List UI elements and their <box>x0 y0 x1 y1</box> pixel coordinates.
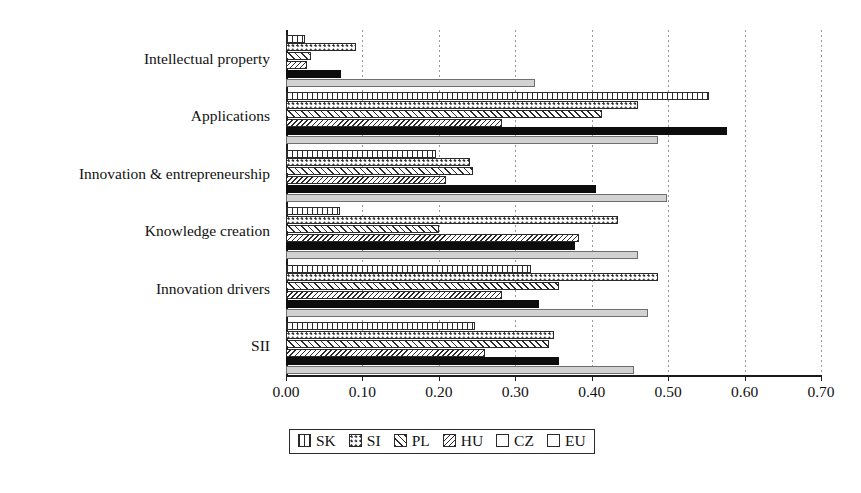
legend-item-hu: HU <box>443 433 483 449</box>
bar-group <box>286 318 820 376</box>
bar-group <box>286 260 820 318</box>
bar-hu <box>286 291 502 299</box>
legend-label: PL <box>412 433 430 449</box>
tick-mark <box>592 375 593 381</box>
x-tick-label: 0.10 <box>332 383 392 401</box>
bar-pl <box>286 167 473 175</box>
bar-sk <box>286 265 531 273</box>
legend-swatch-cz-icon <box>496 434 509 447</box>
bar-hu <box>286 61 307 69</box>
bar-sk <box>286 92 709 100</box>
gridline <box>821 30 822 375</box>
category-label: SII <box>251 337 270 355</box>
chart-legend: SKSIPLHUCZEU <box>289 429 595 454</box>
legend-swatch-si-icon <box>349 434 362 447</box>
bar-hu <box>286 176 446 184</box>
bar-si <box>286 216 618 224</box>
bar-hu <box>286 119 502 127</box>
bar-pl <box>286 110 602 118</box>
bar-cz <box>286 185 596 193</box>
category-label: Intellectual property <box>144 50 270 68</box>
bar-pl <box>286 340 549 348</box>
bar-cz <box>286 300 539 308</box>
legend-label: EU <box>565 433 586 449</box>
bar-hu <box>286 349 485 357</box>
legend-label: HU <box>461 433 483 449</box>
bar-cz <box>286 127 727 135</box>
legend-item-cz: CZ <box>496 433 534 449</box>
bar-si <box>286 158 470 166</box>
bar-sk <box>286 322 475 330</box>
x-tick-label: 0.30 <box>485 383 545 401</box>
category-axis-labels: Intellectual propertyApplicationsInnovat… <box>0 30 278 375</box>
bar-group <box>286 88 820 146</box>
bar-eu <box>286 309 648 317</box>
bar-si <box>286 43 356 51</box>
plot-area <box>286 30 820 375</box>
bar-si <box>286 273 658 281</box>
x-tick-label: 0.20 <box>409 383 469 401</box>
bar-eu <box>286 366 634 374</box>
bar-chart: Intellectual propertyApplicationsInnovat… <box>0 0 861 493</box>
category-label: Applications <box>191 107 270 125</box>
legend-swatch-pl-icon <box>394 434 407 447</box>
legend-item-pl: PL <box>394 433 430 449</box>
tick-mark <box>439 375 440 381</box>
bar-si <box>286 101 638 109</box>
legend-label: CZ <box>514 433 534 449</box>
bar-eu <box>286 251 638 259</box>
bar-pl <box>286 282 559 290</box>
tick-mark <box>515 375 516 381</box>
bar-si <box>286 331 554 339</box>
x-tick-label: 0.60 <box>715 383 775 401</box>
bar-sk <box>286 35 305 43</box>
legend-label: SI <box>367 433 381 449</box>
bar-eu <box>286 194 667 202</box>
category-label: Knowledge creation <box>145 222 270 240</box>
bar-group <box>286 203 820 261</box>
category-label: Innovation drivers <box>156 280 270 298</box>
x-axis-line <box>286 375 821 377</box>
legend-swatch-hu-icon <box>443 434 456 447</box>
tick-mark <box>362 375 363 381</box>
legend-item-si: SI <box>349 433 381 449</box>
legend-swatch-sk-icon <box>298 434 311 447</box>
x-tick-label: 0.70 <box>791 383 851 401</box>
x-tick-label: 0.50 <box>638 383 698 401</box>
tick-mark <box>745 375 746 381</box>
bar-hu <box>286 234 579 242</box>
bar-eu <box>286 79 535 87</box>
legend-swatch-eu-icon <box>547 434 560 447</box>
bar-cz <box>286 357 559 365</box>
bar-sk <box>286 150 436 158</box>
legend-item-sk: SK <box>298 433 336 449</box>
x-tick-label: 0.00 <box>256 383 316 401</box>
category-label: Innovation & entrepreneurship <box>79 165 270 183</box>
bar-eu <box>286 136 658 144</box>
bar-cz <box>286 70 341 78</box>
legend-label: SK <box>316 433 336 449</box>
bar-group <box>286 30 820 88</box>
legend-item-eu: EU <box>547 433 586 449</box>
bar-pl <box>286 225 439 233</box>
tick-mark <box>286 375 287 381</box>
x-tick-label: 0.40 <box>562 383 622 401</box>
bar-cz <box>286 242 575 250</box>
bar-sk <box>286 207 340 215</box>
bar-pl <box>286 52 311 60</box>
tick-mark <box>668 375 669 381</box>
tick-mark <box>821 375 822 381</box>
bar-group <box>286 145 820 203</box>
